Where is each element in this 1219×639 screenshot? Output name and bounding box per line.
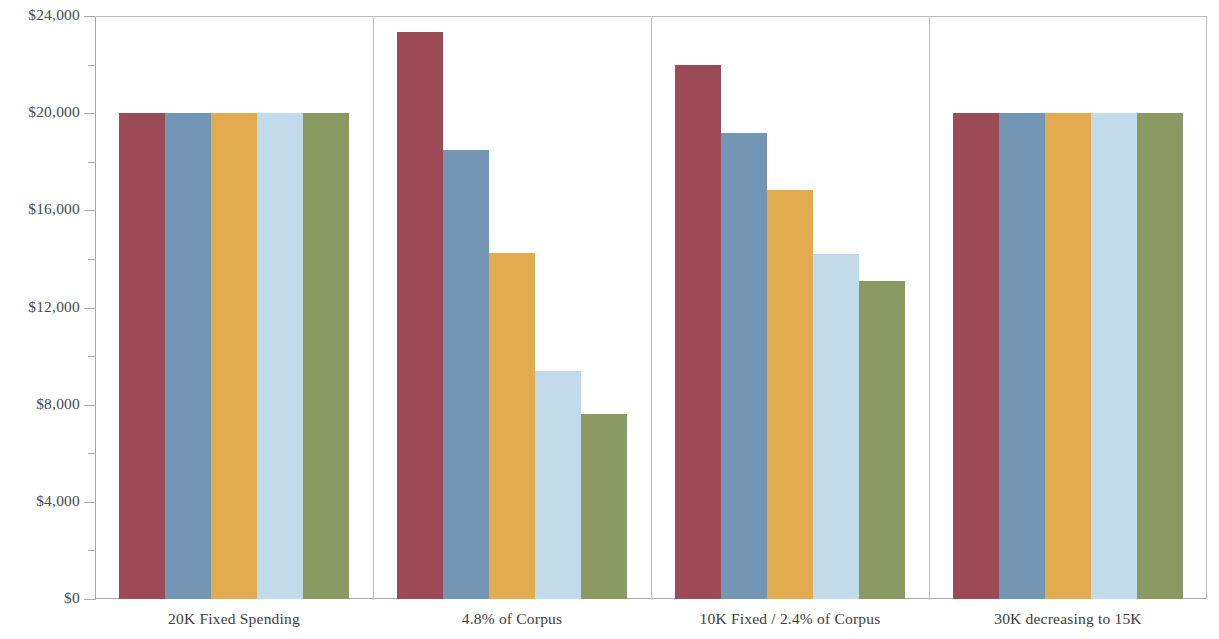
bar bbox=[257, 113, 303, 599]
y-axis-tick-label: $8,000 bbox=[0, 395, 80, 413]
bar bbox=[119, 113, 165, 599]
bar bbox=[581, 414, 627, 599]
x-axis-category-label: 4.8% of Corpus bbox=[373, 610, 651, 628]
bar bbox=[813, 254, 859, 599]
bar bbox=[211, 113, 257, 599]
bar bbox=[675, 65, 721, 599]
bar bbox=[303, 113, 349, 599]
y-axis-tick-label: $20,000 bbox=[0, 103, 80, 121]
bar bbox=[1091, 113, 1137, 599]
y-axis-tick-label: $12,000 bbox=[0, 298, 80, 316]
bars-layer bbox=[95, 16, 1207, 599]
y-axis-tick-label: $16,000 bbox=[0, 200, 80, 218]
bar bbox=[1137, 113, 1183, 599]
y-axis-tick-label: $0 bbox=[0, 589, 80, 607]
bar bbox=[767, 190, 813, 599]
bar bbox=[953, 113, 999, 599]
x-axis-category-label: 30K decreasing to 15K bbox=[929, 610, 1207, 628]
bar bbox=[443, 150, 489, 599]
bar bbox=[999, 113, 1045, 599]
x-axis-category-label: 20K Fixed Spending bbox=[95, 610, 373, 628]
y-axis-tick-label: $4,000 bbox=[0, 492, 80, 510]
bar bbox=[859, 281, 905, 599]
bar bbox=[489, 253, 535, 599]
x-axis-category-label: 10K Fixed / 2.4% of Corpus bbox=[651, 610, 929, 628]
bar bbox=[721, 133, 767, 599]
bar bbox=[165, 113, 211, 599]
bar-chart: $0$4,000$8,000$12,000$16,000$20,000$24,0… bbox=[0, 0, 1219, 639]
bar bbox=[1045, 113, 1091, 599]
y-axis-tick-label: $24,000 bbox=[0, 6, 80, 24]
y-axis-tick bbox=[84, 599, 96, 600]
bar bbox=[535, 371, 581, 599]
bar bbox=[397, 32, 443, 599]
